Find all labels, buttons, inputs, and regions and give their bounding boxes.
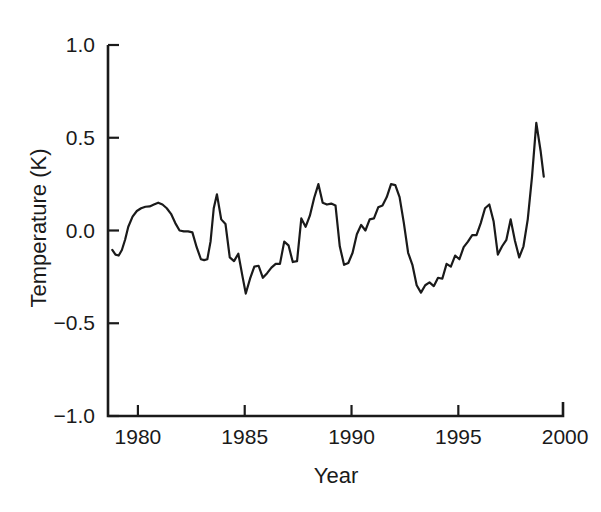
y-tick-label: 0.5 bbox=[66, 126, 95, 149]
y-axis-ticks bbox=[108, 45, 119, 416]
y-axis-title: Temperature (K) bbox=[26, 149, 51, 308]
y-tick-label: −1.0 bbox=[54, 404, 95, 427]
y-tick-label: −0.5 bbox=[54, 311, 95, 334]
y-axis-tick-labels: −1.0−0.50.00.51.0 bbox=[54, 33, 95, 427]
temperature-series-line bbox=[112, 123, 544, 294]
chart-figure: −1.0−0.50.00.51.0 19801985199019952000 T… bbox=[0, 0, 601, 512]
line-chart-svg: −1.0−0.50.00.51.0 19801985199019952000 T… bbox=[0, 0, 601, 512]
y-tick-label: 1.0 bbox=[66, 33, 95, 56]
x-axis-title: Year bbox=[314, 463, 358, 488]
x-axis-tick-labels: 19801985199019952000 bbox=[115, 425, 589, 448]
y-tick-label: 0.0 bbox=[66, 219, 95, 242]
x-tick-label: 1985 bbox=[221, 425, 268, 448]
x-tick-label: 1995 bbox=[435, 425, 482, 448]
x-tick-label: 1990 bbox=[328, 425, 375, 448]
x-tick-label: 2000 bbox=[542, 425, 589, 448]
x-axis-ticks bbox=[138, 405, 458, 416]
x-tick-label: 1980 bbox=[115, 425, 162, 448]
